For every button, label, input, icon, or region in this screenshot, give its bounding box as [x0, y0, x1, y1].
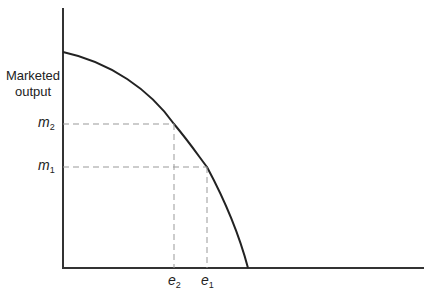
- frontier-curve: [63, 52, 248, 268]
- m1-base: m: [38, 157, 50, 173]
- m1-sub: 1: [50, 165, 55, 175]
- y-axis-label: Marketed output: [3, 68, 63, 100]
- m2-sub: 2: [50, 122, 55, 132]
- m2-label: m2: [38, 114, 55, 132]
- e1-base: e: [201, 272, 209, 288]
- e1-sub: 1: [209, 280, 214, 290]
- e1-label: e1: [201, 272, 214, 290]
- y-axis-label-line1: Marketed: [3, 68, 63, 84]
- diagram-canvas: [0, 0, 429, 297]
- m1-label: m1: [38, 157, 55, 175]
- m2-base: m: [38, 114, 50, 130]
- e2-label: e2: [168, 272, 181, 290]
- y-axis-label-line2: output: [3, 84, 63, 100]
- e2-base: e: [168, 272, 176, 288]
- e2-sub: 2: [176, 280, 181, 290]
